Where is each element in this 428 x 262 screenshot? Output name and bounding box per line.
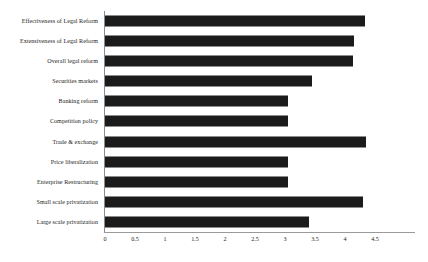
bar-chart: Effectiveness of Legal ReformExtensivene…	[0, 0, 428, 262]
bar	[105, 96, 288, 107]
bar-row: Enterprise Restructuring	[0, 172, 428, 192]
bar-track	[105, 116, 288, 127]
x-tick-label: 2	[223, 236, 226, 242]
x-tick-label: 1.5	[191, 236, 199, 242]
category-label: Competition policy	[50, 118, 98, 124]
bar-row: Extensiveness of Legal Reform	[0, 31, 428, 51]
bar	[105, 36, 354, 47]
bar	[105, 56, 353, 67]
bar-row: Banking reform	[0, 91, 428, 111]
bar-row: Effectiveness of Legal Reform	[0, 11, 428, 31]
bar-track	[105, 56, 353, 67]
x-axis-line	[104, 232, 415, 233]
x-tick-label: 1	[163, 236, 166, 242]
bar	[105, 156, 288, 167]
x-tick-label: 4	[343, 236, 346, 242]
bar-row: Securities markets	[0, 71, 428, 91]
x-tick-label: 0.5	[131, 236, 139, 242]
category-label: Small scale privatization	[37, 199, 99, 205]
bar-track	[105, 176, 288, 187]
bar-rows: Effectiveness of Legal ReformExtensivene…	[0, 11, 428, 232]
bar	[105, 16, 365, 27]
bar	[105, 196, 363, 207]
x-tick-label: 2.5	[251, 236, 259, 242]
bar-row: Price liberalization	[0, 152, 428, 172]
bar-track	[105, 96, 288, 107]
bar	[105, 116, 288, 127]
bar-row: Competition policy	[0, 111, 428, 131]
category-label: Extensiveness of Legal Reform	[20, 38, 98, 44]
category-label: Securities markets	[52, 78, 98, 84]
bar-track	[105, 36, 354, 47]
bar	[105, 136, 366, 147]
bar-track	[105, 156, 288, 167]
x-tick-label: 0	[103, 236, 106, 242]
x-tick-label: 3.5	[311, 236, 319, 242]
category-label: Effectiveness of Legal Reform	[22, 18, 98, 24]
bar-track	[105, 196, 363, 207]
category-label: Trade & exchange	[52, 139, 98, 145]
category-label: Large scale privatization	[37, 219, 98, 225]
bar	[105, 176, 288, 187]
bar-track	[105, 16, 365, 27]
x-tick-label: 3	[283, 236, 286, 242]
x-tick-label: 4.5	[371, 236, 379, 242]
bar-track	[105, 216, 309, 227]
category-label: Banking reform	[59, 98, 98, 104]
bar-row: Trade & exchange	[0, 131, 428, 151]
bar-row: Large scale privatization	[0, 212, 428, 232]
bar	[105, 216, 309, 227]
category-label: Price liberalization	[51, 159, 98, 165]
bar-track	[105, 76, 312, 87]
category-label: Enterprise Restructuring	[37, 179, 98, 185]
bar	[105, 76, 312, 87]
bar-row: Small scale privatization	[0, 192, 428, 212]
x-axis-tick-labels: 00.511.522.533.544.5	[0, 236, 428, 250]
bar-track	[105, 136, 366, 147]
bar-row: Overall legal reform	[0, 51, 428, 71]
category-label: Overall legal reform	[47, 58, 98, 64]
